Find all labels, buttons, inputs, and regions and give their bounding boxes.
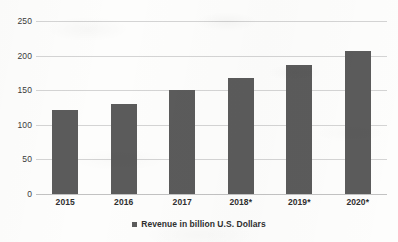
legend-label: Revenue in billion U.S. Dollars — [141, 219, 265, 229]
y-axis: 050100150200250 — [0, 21, 32, 194]
y-axis-tick-label: 50 — [2, 154, 32, 164]
bar-2018-est — [228, 78, 254, 194]
x-axis-tick-label: 2020* — [329, 197, 388, 207]
y-axis-tick-label: 150 — [2, 85, 32, 95]
bar-slot — [212, 21, 271, 194]
bar-2017 — [169, 90, 195, 194]
x-axis-tick-label: 2015 — [36, 197, 95, 207]
bar-slot — [270, 21, 329, 194]
legend-swatch-icon — [132, 222, 137, 227]
bar-series — [36, 21, 387, 194]
x-axis-tick-label: 2019* — [270, 197, 329, 207]
bar-2016 — [111, 104, 137, 194]
y-axis-tick-label: 0 — [2, 189, 32, 199]
x-axis: 2015201620172018*2019*2020* — [36, 197, 387, 213]
x-axis-tick-label: 2018* — [212, 197, 271, 207]
bar-chart: 050100150200250 2015201620172018*2019*20… — [0, 0, 398, 242]
bar-slot — [329, 21, 388, 194]
bar-2015 — [52, 110, 78, 194]
x-axis-tick-label: 2017 — [153, 197, 212, 207]
x-axis-tick-label: 2016 — [95, 197, 154, 207]
chart-legend: Revenue in billion U.S. Dollars — [0, 219, 398, 229]
bar-2019-est — [286, 65, 312, 194]
y-axis-tick-label: 250 — [2, 16, 32, 26]
plot-area — [36, 21, 387, 194]
bar-slot — [153, 21, 212, 194]
bar-slot — [95, 21, 154, 194]
bar-2020-est — [345, 51, 371, 194]
y-axis-tick-label: 200 — [2, 51, 32, 61]
bar-slot — [36, 21, 95, 194]
gridline-0 — [36, 194, 387, 195]
y-axis-tick-label: 100 — [2, 120, 32, 130]
